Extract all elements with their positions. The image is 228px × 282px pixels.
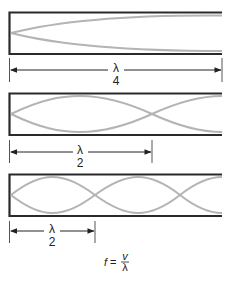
dimension-label: λ 2 [49,222,56,249]
svg-text:λ: λ [77,143,83,157]
dimension-label: λ 2 [77,143,84,170]
dimension-label: λ 4 [113,61,120,88]
svg-text:λ: λ [122,261,128,273]
svg-text:λ: λ [113,61,119,75]
svg-text:2: 2 [49,235,56,249]
svg-text:=: = [110,256,116,268]
svg-text:f: f [104,256,108,268]
panel-1: λ 4 [10,13,223,89]
panel-2: λ 2 [10,94,223,171]
frequency-formula: f = v λ [104,250,129,273]
tube-outline [10,175,223,217]
wave-upper [11,15,222,33]
svg-text:λ: λ [49,222,55,236]
svg-text:2: 2 [77,156,84,170]
svg-text:4: 4 [113,74,120,88]
standing-wave-diagram: λ 4 λ 2 [0,0,228,282]
wave-lower [11,33,222,51]
panel-3: λ 2 [10,175,223,250]
